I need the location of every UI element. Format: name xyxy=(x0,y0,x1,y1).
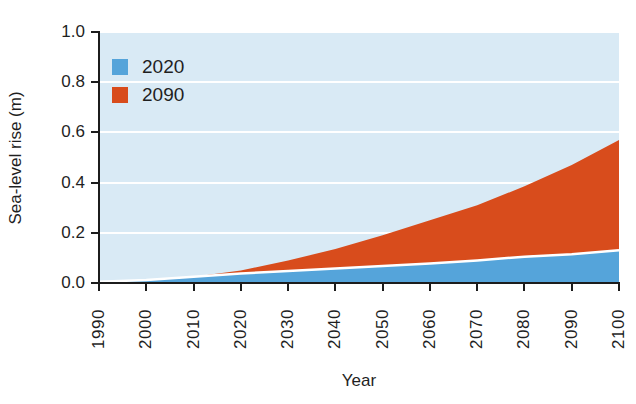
y-tick-label-1.0: 1.0 xyxy=(45,22,85,42)
y-tick-label-0.2: 0.2 xyxy=(45,223,85,243)
legend-label: 2090 xyxy=(142,85,184,105)
legend-item-2020: 2020 xyxy=(112,57,184,77)
y-tick-label-0.4: 0.4 xyxy=(45,173,85,193)
x-tick-label-2100: 2100 xyxy=(609,299,629,359)
legend-swatch-icon xyxy=(112,59,128,75)
x-tick-label-2060: 2060 xyxy=(420,299,440,359)
x-tick-label-2030: 2030 xyxy=(278,299,298,359)
y-axis-title: Sea-level rise (m) xyxy=(6,73,26,243)
x-tick-label-2020: 2020 xyxy=(231,299,251,359)
x-tick-label-2010: 2010 xyxy=(184,299,204,359)
x-axis-title: Year xyxy=(99,371,619,391)
x-tick-label-2000: 2000 xyxy=(136,299,156,359)
x-tick-label-2080: 2080 xyxy=(514,299,534,359)
x-tick-label-2040: 2040 xyxy=(325,299,345,359)
x-tick-label-1990: 1990 xyxy=(89,299,109,359)
x-tick-label-2050: 2050 xyxy=(373,299,393,359)
x-tick-label-2070: 2070 xyxy=(467,299,487,359)
legend-swatch-icon xyxy=(112,87,128,103)
sea-level-rise-chart: Sea-level rise (m) Year 0.00.20.40.60.81… xyxy=(0,0,636,404)
x-tick-label-2090: 2090 xyxy=(562,299,582,359)
y-tick-label-0.6: 0.6 xyxy=(45,122,85,142)
y-tick-label-0.0: 0.0 xyxy=(45,273,85,293)
legend-item-2090: 2090 xyxy=(112,85,184,105)
legend: 20202090 xyxy=(112,57,184,113)
legend-label: 2020 xyxy=(142,57,184,77)
y-tick-label-0.8: 0.8 xyxy=(45,72,85,92)
